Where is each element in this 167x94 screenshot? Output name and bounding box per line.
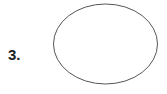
ellipse-outline <box>54 4 158 84</box>
ellipse-shape <box>0 0 167 94</box>
